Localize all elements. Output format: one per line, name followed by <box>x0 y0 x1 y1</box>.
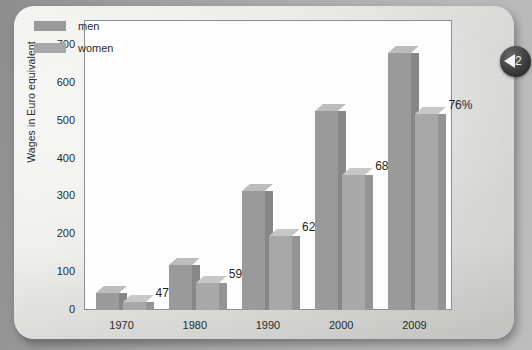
bar-side-face <box>219 283 227 310</box>
bar-front-face <box>196 283 219 310</box>
bar-women-2000 <box>342 175 365 310</box>
bar-men-1970 <box>96 293 119 310</box>
legend-label-men: men <box>78 20 99 32</box>
x-axis-tick-label: 2000 <box>311 320 371 331</box>
bar-front-face <box>269 236 292 310</box>
legend-swatch-men <box>34 21 66 31</box>
bar-men-1980 <box>169 265 192 310</box>
y-axis-tick-label: 400 <box>41 153 75 164</box>
bar-front-face <box>96 293 119 310</box>
chart-legend: men women <box>34 17 113 61</box>
bar-side-face <box>292 236 300 310</box>
bar-front-face <box>315 111 338 310</box>
bar-front-face <box>123 302 146 310</box>
bar-front-face <box>342 175 365 310</box>
y-axis-tick-label: 500 <box>41 115 75 126</box>
y-axis-tick-label: 200 <box>41 228 75 239</box>
bar-women-1970 <box>123 302 146 310</box>
bar-women-1990 <box>269 236 292 310</box>
bar-front-face <box>169 265 192 310</box>
x-axis-tick-label: 1990 <box>238 320 298 331</box>
bar-men-2000 <box>315 111 338 310</box>
bar-front-face <box>242 191 265 310</box>
bar-men-2009 <box>388 53 411 310</box>
bar-side-face <box>438 114 446 310</box>
y-axis-tick-label: 100 <box>41 266 75 277</box>
bar-percent-label-2009: 76% <box>448 99 472 111</box>
bar-men-1990 <box>242 191 265 310</box>
x-axis-tick-label: 1980 <box>165 320 225 331</box>
x-axis-tick-label: 2009 <box>384 320 444 331</box>
y-axis-tick-label: 0 <box>41 304 75 315</box>
bar-front-face <box>388 53 411 310</box>
bar-side-face <box>146 302 154 310</box>
x-axis-tick-label: 1970 <box>92 320 152 331</box>
legend-item-women: women <box>34 39 113 57</box>
bar-front-face <box>415 114 438 310</box>
legend-label-women: women <box>78 42 113 54</box>
page-number-label: 2 <box>515 54 522 69</box>
legend-item-men: men <box>34 17 113 35</box>
bar-side-face <box>365 175 373 310</box>
bar-women-1980 <box>196 283 219 310</box>
bar-women-2009 <box>415 114 438 310</box>
y-axis-tick-label: 300 <box>41 190 75 201</box>
y-axis-tick-label: 600 <box>41 77 75 88</box>
page-number-badge[interactable]: 2 <box>500 46 531 77</box>
legend-swatch-women <box>34 43 66 53</box>
triangle-left-icon <box>504 54 515 68</box>
